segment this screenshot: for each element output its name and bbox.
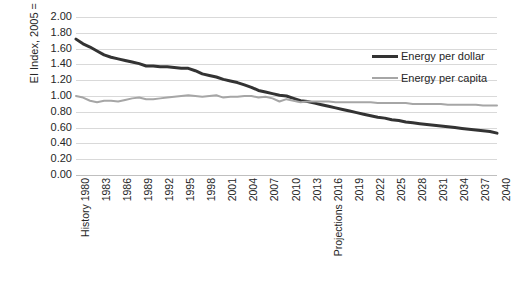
- x-axis-tick-label: 2040: [501, 178, 512, 201]
- y-axis-tick-label: 0.60: [32, 122, 72, 133]
- x-axis-tick-label: History 1980: [80, 178, 91, 237]
- legend-item-energy-per-dollar: Energy per dollar: [372, 47, 502, 65]
- x-axis-line: [76, 175, 497, 176]
- x-axis-tick-label: 2028: [417, 178, 428, 201]
- x-axis-tick-label: 1983: [101, 178, 112, 201]
- x-axis-tick-label: 1989: [143, 178, 154, 201]
- x-axis-tick-label: 1998: [206, 178, 217, 201]
- x-axis-tick-label: Projections 2016: [333, 178, 344, 256]
- legend-line-swatch-icon: [372, 77, 398, 79]
- x-axis-tick-label: 1995: [185, 178, 196, 201]
- x-axis-tick-label: 2007: [269, 178, 280, 201]
- legend-line-swatch-icon: [372, 55, 398, 58]
- legend-item-label: Energy per dollar: [401, 50, 485, 62]
- legend-item-energy-per-capita: Energy per capita: [372, 69, 502, 87]
- x-axis-tick-label: 1992: [164, 178, 175, 201]
- x-axis-tick-label: 1986: [122, 178, 133, 201]
- x-axis-tick-label: 2025: [396, 178, 407, 201]
- x-axis-tick-label: 2013: [312, 178, 323, 201]
- y-axis-tick-label: 0.20: [32, 153, 72, 164]
- series-lines: [76, 17, 497, 175]
- x-axis-tick-label: 2019: [354, 178, 365, 201]
- x-axis-tick-label: 2031: [438, 178, 449, 201]
- x-axis-tick-label: 2022: [375, 178, 386, 201]
- x-axis-tick-labels: History 19801983198619891992199519982001…: [76, 178, 497, 278]
- y-axis-title: EI Index, 2005 = 1.0: [28, 0, 40, 114]
- x-axis-tick-label: 2001: [227, 178, 238, 201]
- y-axis-tick-label: 0.40: [32, 137, 72, 148]
- x-axis-tick-label: 2034: [459, 178, 470, 201]
- x-axis-tick-label: 2037: [480, 178, 491, 201]
- x-axis-tick-label: 2010: [291, 178, 302, 201]
- x-axis-tick-label: 2004: [248, 178, 259, 201]
- plot-area: [76, 17, 497, 175]
- legend-item-label: Energy per capita: [401, 72, 487, 84]
- y-axis-tick-label: 0.00: [32, 169, 72, 180]
- chart-legend: Energy per dollar Energy per capita: [372, 47, 502, 91]
